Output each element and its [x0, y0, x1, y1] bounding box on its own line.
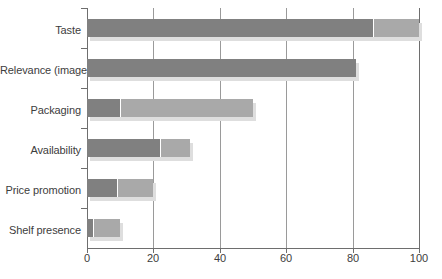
y-axis-label-packaging: Packaging	[0, 104, 81, 116]
bar-segment-a-availability	[87, 139, 160, 157]
gridline-40	[220, 8, 221, 248]
gridline-60	[286, 8, 287, 248]
x-axis-label-60: 60	[280, 252, 292, 264]
y-axis-label-taste: Taste	[0, 24, 81, 36]
x-axis-label-40: 40	[214, 252, 226, 264]
bar-separator-availability	[160, 139, 161, 157]
x-axis-labels: 0 20 40 60 80 100	[87, 252, 442, 272]
y-axis-label-price-promotion: Price promotion	[0, 184, 81, 196]
x-axis-label-0: 0	[84, 252, 90, 264]
bar-segment-a-taste	[87, 19, 373, 37]
bar-segment-a-packaging	[87, 99, 120, 117]
y-tick-top	[81, 8, 87, 9]
y-tick-5	[81, 208, 87, 209]
y-tick-3	[81, 128, 87, 129]
y-axis-labels: Taste Relevance (image) Packaging Availa…	[0, 8, 81, 248]
horizontal-bar-chart: Taste Relevance (image) Packaging Availa…	[0, 0, 442, 279]
y-tick-2	[81, 88, 87, 89]
y-axis-line	[87, 8, 88, 248]
x-axis-label-80: 80	[347, 252, 359, 264]
plot-area	[87, 8, 419, 248]
y-axis-label-shelf-presence: Shelf presence	[0, 224, 81, 236]
gridline-80	[353, 8, 354, 248]
y-tick-4	[81, 168, 87, 169]
x-axis-label-20: 20	[147, 252, 159, 264]
y-tick-1	[81, 48, 87, 49]
bar-segment-a-price-promotion	[87, 179, 117, 197]
gridline-20	[153, 8, 154, 248]
bar-separator-price-promotion	[117, 179, 118, 197]
bar-segment-a-relevance-image	[87, 59, 356, 77]
y-axis-label-availability: Availability	[0, 144, 81, 156]
bar-separator-shelf-presence	[93, 219, 94, 237]
y-axis-label-relevance-image: Relevance (image)	[0, 64, 81, 76]
x-axis-line	[87, 248, 420, 249]
bar-separator-taste	[373, 19, 374, 37]
gridline-100	[419, 8, 420, 248]
bar-separator-packaging	[120, 99, 121, 117]
x-axis-label-100: 100	[410, 252, 428, 264]
